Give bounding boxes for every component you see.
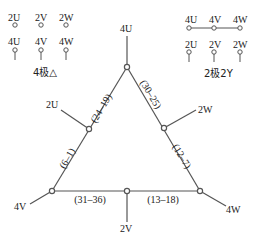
terminal-icon — [39, 23, 43, 27]
legend-left-top-1: 2U — [8, 12, 21, 23]
terminal-2u-label: 2U — [46, 99, 59, 110]
terminal-icon — [64, 23, 68, 27]
terminal-2w-label: 2W — [198, 104, 213, 115]
coil-left-lower-label: (6–1) — [57, 146, 78, 171]
legend-left-caption: 4极△ — [33, 66, 57, 78]
node-4w-icon — [197, 188, 202, 193]
lead-4v — [30, 191, 52, 204]
coil-bottom-left-label: (31–36) — [74, 194, 106, 206]
legend-2pole-2y: 4U 4V 4W 2U 2V 2W 2极2Y — [185, 14, 248, 79]
terminal-lead-icon — [238, 50, 242, 54]
lead-4w — [200, 191, 226, 206]
coil-bottom-right-label: (13–18) — [147, 194, 179, 206]
legend-4pole-delta: 2U 2V 2W 4U 4V 4W 4极△ — [8, 12, 74, 78]
terminal-4v-label: 4V — [14, 201, 27, 212]
node-2w-icon — [161, 125, 166, 130]
legend-left-top-2: 2V — [35, 12, 48, 23]
terminal-2v-label: 2V — [120, 223, 133, 234]
legend-right-top-3: 4W — [233, 14, 248, 25]
legend-right-top-1: 4U — [185, 14, 198, 25]
terminal-icon — [187, 26, 191, 30]
node-4v-icon — [49, 188, 54, 193]
terminal-4w-label: 4W — [226, 204, 241, 215]
terminal-icon — [13, 23, 17, 27]
terminal-lead-icon — [187, 50, 191, 54]
legend-right-bot-2: 2V — [209, 39, 222, 50]
winding-diagram: 2U 2V 2W 4U 4V 4W 4极△ 4U 4V 4W 2U 2V — [0, 0, 254, 240]
terminal-icon — [238, 26, 242, 30]
delta-triangle — [30, 36, 226, 222]
terminal-lead-icon — [39, 48, 43, 52]
terminal-lead-icon — [64, 48, 68, 52]
node-2v-icon — [124, 188, 129, 193]
node-4u-icon — [124, 64, 129, 69]
legend-left-bot-2: 4V — [35, 36, 48, 47]
lead-2w — [164, 110, 196, 128]
legend-right-caption: 2极2Y — [204, 67, 234, 79]
lead-2u — [61, 110, 89, 129]
terminal-icon — [212, 26, 216, 30]
legend-left-bot-1: 4U — [8, 36, 21, 47]
node-2u-icon — [86, 126, 91, 131]
legend-left-bot-3: 4W — [59, 36, 74, 47]
legend-right-top-2: 4V — [209, 14, 222, 25]
coil-right-lower-label: (12–7) — [170, 142, 194, 171]
terminal-lead-icon — [13, 48, 17, 52]
legend-right-bot-1: 2U — [185, 39, 198, 50]
legend-left-top-3: 2W — [59, 12, 74, 23]
legend-right-bot-3: 2W — [233, 39, 248, 50]
terminal-lead-icon — [212, 50, 216, 54]
coil-left-upper-label: (24–19) — [88, 92, 115, 125]
terminal-4u-label: 4U — [120, 23, 133, 34]
